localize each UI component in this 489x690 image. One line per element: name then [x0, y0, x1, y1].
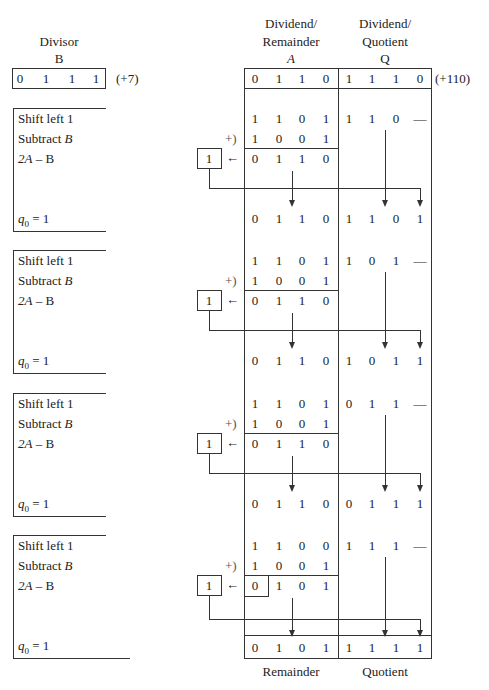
- divisor-bit: 1: [69, 72, 76, 85]
- result-a-bit: 0: [299, 641, 306, 654]
- carry-route-down: [209, 596, 210, 619]
- a-arrow-line: [292, 171, 293, 200]
- shift-q-bit: —: [414, 112, 427, 125]
- q0-arrow-line: [420, 473, 421, 485]
- diff-bit: 0: [252, 294, 259, 307]
- step-block-bottom: [13, 516, 106, 517]
- shift-q-bit: 0: [393, 112, 400, 125]
- shift-a-bit: 0: [299, 539, 306, 552]
- a-title-line2: Remainder: [262, 35, 319, 48]
- frame-right: [431, 68, 432, 659]
- final-row-top: [244, 635, 432, 636]
- shift-q-bit: 1: [369, 112, 376, 125]
- divisor-bit: 1: [93, 72, 100, 85]
- result-q-bit: 1: [393, 497, 400, 510]
- shift-q-bit: 1: [393, 254, 400, 267]
- q0-arrow-line: [420, 188, 421, 200]
- carry-route-horizontal: [209, 473, 420, 474]
- a-arrow-line: [292, 598, 293, 630]
- result-a-bit: 0: [252, 497, 259, 510]
- q-arrow-icon: [382, 630, 388, 637]
- carry-bit: 1: [206, 294, 213, 307]
- result-a-bit: 1: [276, 497, 283, 510]
- result-a-bit: 1: [276, 212, 283, 225]
- label-difference: 2A – B: [18, 152, 54, 165]
- carry-route-horizontal: [209, 188, 420, 189]
- label-difference: 2A – B: [18, 294, 54, 307]
- carry-route-down: [209, 311, 210, 330]
- q-arrow-icon: [382, 485, 388, 492]
- q-arrow-line: [385, 272, 386, 342]
- result-a-bit: 1: [323, 641, 330, 654]
- shift-q-bit: —: [414, 254, 427, 267]
- diff-bit: 0: [252, 437, 259, 450]
- q-arrow-line: [385, 557, 386, 630]
- result-a-bit: 0: [323, 212, 330, 225]
- a-register-label: A: [287, 52, 295, 65]
- label-q0: q0 = 1: [18, 497, 49, 514]
- q-title-line2: Quotient: [362, 35, 408, 48]
- plus-sign: +): [225, 132, 237, 145]
- neg-b-bit: 1: [323, 274, 330, 287]
- q-register-label: Q: [380, 52, 389, 65]
- result-q-bit: 1: [417, 497, 424, 510]
- diff-bit: 0: [323, 152, 330, 165]
- quotient-label: Quotient: [362, 665, 408, 678]
- q-arrow-icon: [382, 342, 388, 349]
- step-block-top: [13, 393, 106, 394]
- shift-q-bit: 1: [369, 539, 376, 552]
- carry-route-down: [209, 454, 210, 473]
- frame-bottom: [244, 658, 432, 659]
- result-q-bit: 0: [369, 354, 376, 367]
- initial-q-bit: 0: [417, 72, 424, 85]
- shift-a-bit: 0: [299, 112, 306, 125]
- shift-a-bit: 1: [323, 112, 330, 125]
- initial-a-bit: 0: [252, 72, 259, 85]
- neg-b-bit: 0: [276, 417, 283, 430]
- diff-bit: 1: [276, 579, 283, 592]
- initial-row-bottom: [244, 88, 432, 89]
- result-a-bit: 0: [252, 641, 259, 654]
- step-block-bottom: [13, 658, 130, 659]
- diff-bit: 1: [299, 437, 306, 450]
- carry-bit: 1: [206, 579, 213, 592]
- result-q-bit: 1: [346, 212, 353, 225]
- q-arrow-icon: [382, 200, 388, 207]
- diff-bit: 1: [276, 152, 283, 165]
- label-subtract: Subtract B: [18, 417, 73, 430]
- left-arrow-icon: ←: [226, 436, 239, 449]
- diff-bit: 1: [276, 294, 283, 307]
- step-block-left: [13, 250, 14, 373]
- label-subtract: Subtract B: [18, 132, 73, 145]
- neg-b-bit: 0: [276, 274, 283, 287]
- step-block-left: [13, 108, 14, 231]
- shift-a-bit: 1: [252, 539, 259, 552]
- shift-q-bit: 1: [346, 254, 353, 267]
- step-block-top: [13, 108, 106, 109]
- q0-arrow-icon: [417, 200, 423, 207]
- plus-sign: +): [225, 559, 237, 572]
- diff-bit: 0: [323, 294, 330, 307]
- result-q-bit: 1: [369, 497, 376, 510]
- sum-underline: [244, 148, 338, 149]
- frame-left: [244, 68, 245, 659]
- a-arrow-icon: [289, 200, 295, 207]
- result-q-bit: 0: [393, 212, 400, 225]
- label-shift: Shift left 1: [18, 539, 74, 552]
- initial-q-bit: 1: [346, 72, 353, 85]
- shift-a-bit: 1: [252, 397, 259, 410]
- label-shift: Shift left 1: [18, 112, 74, 125]
- left-arrow-icon: ←: [226, 578, 239, 591]
- neg-b-bit: 0: [299, 132, 306, 145]
- shift-q-bit: 1: [346, 112, 353, 125]
- a-arrow-icon: [289, 342, 295, 349]
- remainder-label: Remainder: [262, 665, 319, 678]
- q0-arrow-line: [420, 330, 421, 342]
- shift-q-bit: —: [414, 539, 427, 552]
- sign-bit-box: [244, 575, 269, 597]
- sum-underline: [244, 290, 338, 291]
- shift-q-bit: 1: [393, 539, 400, 552]
- initial-q-bit: 1: [369, 72, 376, 85]
- diff-bit: 0: [323, 437, 330, 450]
- result-a-bit: 0: [323, 354, 330, 367]
